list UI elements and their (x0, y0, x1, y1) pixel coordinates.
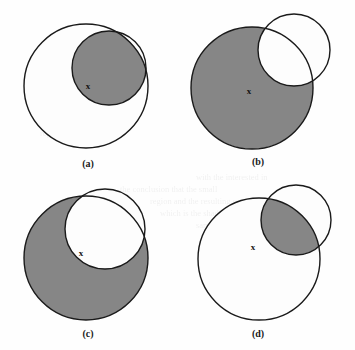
circle-set-operations-figure: with the interested inthe conclusion tha… (0, 0, 355, 350)
panel-d-caption: (d) (252, 328, 264, 340)
figure-container: with the interested inthe conclusion tha… (0, 0, 355, 350)
panel-d-point-marker: x (251, 242, 256, 252)
panel-c-point-marker: x (79, 248, 84, 258)
panel-c-caption: (c) (82, 328, 93, 340)
